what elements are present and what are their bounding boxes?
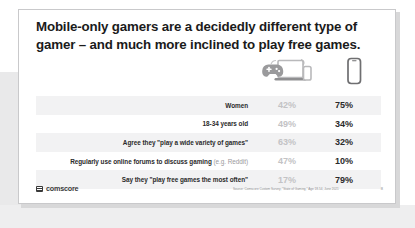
column-header-mobile-only [327, 52, 381, 96]
row-value-mobile-only: 75% [317, 100, 371, 110]
column-header-icons [19, 52, 396, 96]
gamepad-laptop-phone-icon [261, 57, 313, 91]
row-value-multiplatform: 63% [257, 137, 317, 147]
row-label: Agree they "play a wide variety of games… [36, 139, 257, 146]
smartphone-icon [343, 56, 365, 92]
row-value-mobile-only: 34% [317, 119, 371, 129]
row-label: Women [36, 102, 257, 109]
slide-card: Mobile-only gamers are a decidedly diffe… [18, 9, 396, 204]
page-number: 8 [381, 186, 383, 191]
column-header-multiplatform [257, 52, 317, 96]
slide-footer: comscore Source: Comscore Custom Survey,… [19, 177, 396, 203]
row-value-multiplatform: 49% [257, 119, 317, 129]
table-row: Women 42% 75% [36, 96, 381, 115]
table-row: Agree they "play a wide variety of games… [36, 133, 381, 152]
table-row: Regularly use online forums to discuss g… [36, 152, 381, 171]
row-value-multiplatform: 42% [257, 100, 317, 110]
row-value-mobile-only: 32% [317, 137, 371, 147]
comscore-logo-icon [36, 186, 43, 192]
row-value-mobile-only: 10% [317, 156, 371, 166]
comscore-logo-text: comscore [46, 184, 78, 193]
slide-title: Mobile-only gamers are a decidedly diffe… [36, 18, 380, 54]
source-note: Source: Comscore Custom Survey, "State o… [233, 187, 339, 191]
row-label: 18-34 years old [36, 120, 257, 127]
row-label-note: (e.g. Reddit) [213, 158, 248, 165]
row-label: Regularly use online forums to discuss g… [36, 158, 257, 165]
background-panel-bottom [0, 205, 415, 228]
comparison-table: Women 42% 75% 18-34 years old 49% 34% Ag… [36, 96, 381, 189]
table-row: 18-34 years old 49% 34% [36, 115, 381, 134]
row-value-multiplatform: 47% [257, 156, 317, 166]
comscore-logo: comscore [36, 184, 78, 193]
